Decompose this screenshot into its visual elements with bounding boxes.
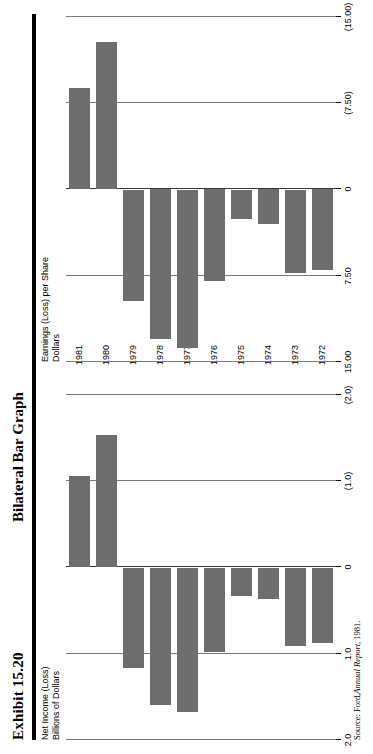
rotated-page-wrapper: Exhibit 15.20 Bilateral Bar Graph Net In… [0, 0, 373, 754]
bar [312, 190, 333, 271]
gridline [66, 653, 336, 654]
bar [150, 190, 171, 340]
axis-tick [336, 739, 341, 740]
gridline [66, 361, 336, 362]
source-work: Annual Report [352, 644, 362, 694]
axis-tick-label: 0 [343, 186, 353, 191]
gridline [66, 739, 336, 740]
axis-tick-label: (15.00) [343, 3, 353, 32]
header-divider [32, 14, 36, 740]
bar [285, 190, 306, 274]
axis-tick [336, 275, 341, 276]
exhibit-number: Exhibit 15.20 [10, 652, 27, 740]
bar [312, 568, 333, 643]
source-year: , 1981. [352, 621, 362, 644]
bar [96, 42, 117, 189]
bar [96, 435, 117, 568]
bar [177, 190, 198, 349]
axis-tick [336, 361, 341, 362]
axis-tick-label: 0 [343, 564, 353, 569]
axis-tick [336, 653, 341, 654]
bar [258, 568, 279, 599]
bar [123, 190, 144, 302]
axis-tick-label: (1.0) [343, 472, 353, 491]
page-title: Bilateral Bar Graph [10, 392, 27, 522]
plot-area-earnings-per-share: 15.007.500(7.50)(15.00)19721973197419751… [66, 17, 336, 362]
bar [69, 476, 90, 567]
axis-tick [336, 480, 341, 481]
axis-tick-label: (7.50) [343, 91, 353, 115]
axis-tick [336, 566, 341, 567]
chart-units-net-income: Billions of Dollars [51, 671, 62, 740]
bar [69, 88, 90, 189]
axis-tick [336, 102, 341, 103]
source-note: Source: Ford,Annual Report, 1981. [352, 621, 362, 740]
chart-title-earnings-per-share: Earnings (Loss) per Share [40, 257, 51, 362]
chart-net-income: Net Income (Loss) Billions of Dollars 2.… [40, 395, 365, 740]
bar [123, 568, 144, 669]
bar [204, 568, 225, 653]
bar [231, 568, 252, 596]
gridline [66, 16, 336, 17]
plot-area-net-income: 2.01.00(1.0)(2.0)19721973197419751976197… [66, 395, 336, 740]
bar [177, 568, 198, 712]
axis-tick-label: 15.00 [343, 351, 353, 374]
axis-tick [336, 394, 341, 395]
exhibit-page: Exhibit 15.20 Bilateral Bar Graph Net In… [0, 0, 373, 754]
gridline [66, 394, 336, 395]
chart-units-earnings-per-share: Dollars [51, 334, 62, 362]
bar [150, 568, 171, 705]
gridline [66, 275, 336, 276]
bar [285, 568, 306, 646]
axis-tick [336, 188, 341, 189]
source-prefix: Source: [352, 714, 362, 740]
chart-earnings-per-share: Earnings (Loss) per Share Dollars 15.007… [40, 17, 365, 362]
chart-title-net-income: Net Income (Loss) [40, 666, 51, 740]
bar [204, 190, 225, 282]
axis-tick-label: 7.50 [343, 267, 353, 285]
axis-tick-label: (2.0) [343, 386, 353, 405]
axis-tick [336, 16, 341, 17]
source-publisher: Ford, [352, 694, 362, 712]
bar [231, 190, 252, 220]
bar [258, 190, 279, 225]
